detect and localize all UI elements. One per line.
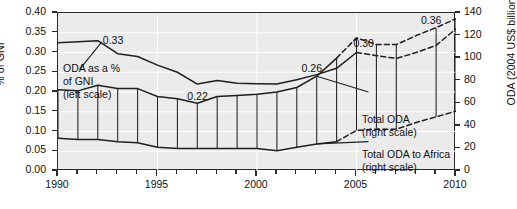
x-tick-label: 1990 (34, 179, 80, 190)
y-right-tick-label: 0 (464, 164, 494, 175)
value-annotation: 0.33 (103, 34, 123, 46)
y-right-tick-label: 140 (464, 6, 494, 17)
y-left-tick-label: 0.15 (10, 105, 46, 116)
leader-lines (80, 42, 369, 144)
y-right-tick-label: 60 (464, 96, 494, 107)
callout-line-1: Total ODA to Africa (362, 148, 450, 161)
y-left-tick-label: 0.00 (10, 164, 46, 175)
y-left-tick-label: 0.35 (10, 26, 46, 37)
y-left-tick-label: 0.10 (10, 125, 46, 136)
y-axis-left-title: % of GNI (0, 42, 6, 85)
callout-line-2: (right scale) (362, 126, 417, 139)
y-left-tick-label: 0.05 (10, 144, 46, 155)
value-annotation: 0.30 (354, 37, 374, 49)
oda-chart: % of GNI 0.000.050.100.150.200.250.300.3… (0, 0, 517, 209)
x-tick-label: 2005 (333, 179, 379, 190)
y-right-tick-label: 40 (464, 119, 494, 130)
value-annotation: 0.36 (421, 14, 441, 26)
callout-line-2: (right scale) (362, 161, 450, 174)
total-oda-callout: Total ODA (right scale) (362, 113, 417, 139)
y-left-tick-label: 0.40 (10, 6, 46, 17)
y-left-tick-label: 0.25 (10, 65, 46, 76)
callout-line-1: ODA as a % (63, 62, 120, 75)
y-right-tick-label: 120 (464, 29, 494, 40)
callout-line-1: Total ODA (362, 113, 417, 126)
value-annotation: 0.22 (187, 90, 207, 102)
y-right-tick-label: 20 (464, 141, 494, 152)
callout-line-2: of GNI (63, 75, 120, 88)
y-right-tick-label: 80 (464, 74, 494, 85)
total-oda-africa-callout: Total ODA to Africa (right scale) (362, 148, 450, 174)
x-tick-label: 2010 (432, 179, 478, 190)
y-left-tick-label: 0.30 (10, 46, 46, 57)
value-annotation: 0.26 (302, 62, 322, 74)
oda-pct-gni-callout: ODA as a % of GNI (left scale) (63, 62, 120, 101)
callout-line-3: (left scale) (63, 88, 120, 101)
y-right-tick-label: 100 (464, 51, 494, 62)
x-tick-label: 1995 (134, 179, 180, 190)
y-left-tick-label: 0.20 (10, 85, 46, 96)
x-tick-label: 2000 (233, 179, 279, 190)
y-axis-right-title: ODA (2004 US$ billion) (505, 0, 517, 105)
